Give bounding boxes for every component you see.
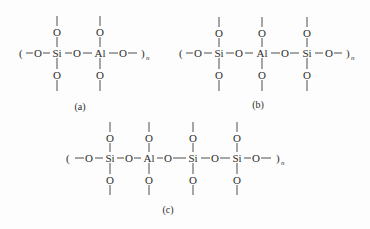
pendant-oxygen-bottom: O	[215, 69, 223, 81]
pendant-oxygen-top: O	[258, 27, 266, 39]
oxygen-atom: O	[325, 47, 333, 59]
structure-a: ( O Si O Al O ) n O O O O (a)	[19, 16, 150, 113]
pendant-oxygen-top: O	[106, 132, 114, 144]
caption-c: (c)	[162, 204, 173, 216]
oxygen-atom: O	[119, 47, 127, 59]
silicon-atom: Si	[232, 152, 241, 164]
oxygen-atom: O	[164, 152, 172, 164]
oxygen-atom: O	[194, 47, 202, 59]
pendant-oxygen-bottom: O	[96, 69, 104, 81]
silicon-atom: Si	[52, 47, 61, 59]
pendant-oxygen-bottom: O	[233, 174, 241, 186]
oxygen-atom: O	[235, 47, 243, 59]
open-paren: (	[19, 47, 23, 60]
aluminum-atom: Al	[257, 47, 268, 59]
close-paren: )	[346, 47, 350, 60]
oxygen-atom: O	[211, 152, 219, 164]
pendant-oxygen-bottom: O	[189, 174, 197, 186]
oxygen-atom: O	[34, 47, 42, 59]
oxygen-atom: O	[125, 152, 133, 164]
silicon-atom: Si	[105, 152, 114, 164]
silicon-atom: Si	[302, 47, 311, 59]
pendant-oxygen-top: O	[53, 26, 61, 38]
caption-b: (b)	[252, 99, 264, 111]
pendant-oxygen-bottom: O	[303, 69, 311, 81]
repeat-subscript: n	[351, 54, 355, 62]
close-paren: )	[141, 47, 145, 60]
repeat-subscript: n	[146, 54, 150, 62]
pendant-oxygen-top: O	[233, 132, 241, 144]
pendant-oxygen-bottom: O	[258, 69, 266, 81]
aluminosilicate-structures-diagram: ( O Si O Al O ) n O O O O (a) (	[0, 0, 370, 229]
pendant-oxygen-bottom: O	[53, 69, 61, 81]
oxygen-atom: O	[85, 152, 93, 164]
silicon-atom: Si	[214, 47, 223, 59]
pendant-oxygen-top: O	[145, 132, 153, 144]
pendant-oxygen-top: O	[215, 27, 223, 39]
aluminum-atom: Al	[144, 152, 155, 164]
figure-canvas: ( O Si O Al O ) n O O O O (a) (	[0, 0, 370, 229]
silicon-atom: Si	[188, 152, 197, 164]
oxygen-atom: O	[73, 47, 81, 59]
close-paren: )	[276, 152, 280, 165]
oxygen-atom: O	[281, 47, 289, 59]
oxygen-atom: O	[252, 152, 260, 164]
pendant-oxygen-top: O	[96, 26, 104, 38]
open-paren: (	[179, 47, 183, 60]
open-paren: (	[66, 152, 70, 165]
structure-b: ( O Si O Al O Si O ) n O O O O O O (b)	[179, 17, 355, 111]
structure-c: ( O Si O Al O Si O Si O ) n O O O O O O …	[66, 122, 285, 216]
caption-a: (a)	[74, 101, 85, 113]
pendant-oxygen-top: O	[303, 27, 311, 39]
pendant-oxygen-bottom: O	[106, 174, 114, 186]
pendant-oxygen-bottom: O	[145, 174, 153, 186]
aluminum-atom: Al	[95, 47, 106, 59]
repeat-subscript: n	[281, 159, 285, 167]
pendant-oxygen-top: O	[189, 132, 197, 144]
